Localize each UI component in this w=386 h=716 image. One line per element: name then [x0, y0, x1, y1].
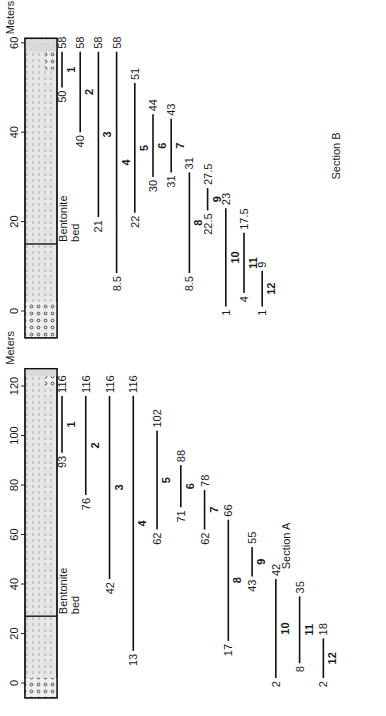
range-top-value: 116: [56, 375, 68, 393]
bentonite-label-bed: bed: [69, 224, 81, 242]
range-base-value: 17: [222, 644, 234, 656]
bentonite-label: Bentonite: [57, 195, 69, 241]
taxon-range-5: 51225: [129, 68, 150, 228]
range-base-value: 62: [151, 533, 163, 545]
range-id: 10: [279, 622, 291, 634]
taxon-range-10: 42210: [270, 564, 291, 687]
range-base-value: 22: [129, 216, 141, 228]
axis-tick-label: 80: [8, 479, 20, 491]
range-base-value: 8: [294, 666, 306, 672]
axis-tick-label: 20: [8, 215, 20, 227]
range-base-value: 43: [246, 580, 258, 592]
bentonite-label-bed: bed: [69, 596, 81, 614]
axis-title: Meters: [4, 331, 16, 365]
range-top-value: 43: [165, 104, 177, 116]
section-title: Section B: [330, 132, 342, 179]
range-id: 1: [65, 67, 77, 73]
stratigraphic-range-chart: Meters020406080100120Bentonitebed1169311…: [0, 0, 386, 716]
range-base-value: 93: [56, 456, 68, 468]
range-top-value: 44: [147, 99, 159, 111]
range-top-value: 78: [199, 475, 211, 487]
range-top-value: 31: [183, 157, 195, 169]
taxon-range-12: 18212: [317, 623, 338, 687]
range-top-value: 17.5: [238, 208, 250, 229]
range-top-value: 23: [220, 193, 232, 205]
range-id: 5: [160, 477, 172, 483]
range-top-value: 116: [104, 375, 116, 393]
conglomerate-layer-base: [25, 302, 57, 338]
range-top-value: 18: [317, 623, 329, 635]
range-top-value: 51: [129, 68, 141, 80]
range-id: 6: [156, 143, 168, 149]
axis-tick-label: 60: [8, 528, 20, 540]
range-top-value: 27.5: [202, 164, 214, 185]
taxon-range-11: 35811: [294, 581, 315, 672]
range-base-value: 2: [270, 681, 282, 687]
range-id: 10: [229, 251, 241, 263]
taxon-range-7: 43317: [165, 104, 186, 188]
range-base-value: 22.5: [202, 213, 214, 234]
range-id: 11: [303, 624, 315, 636]
axis-tick-label: 100: [8, 426, 20, 444]
conglomerate-layer-top: [45, 52, 56, 70]
section-b: Meters0204060Bentonitebed585015840258213…: [4, 0, 342, 338]
taxon-range-4: 116134: [127, 375, 148, 666]
range-base-value: 40: [74, 135, 86, 147]
range-base-value: 1: [220, 310, 232, 316]
range-base-value: 13: [127, 654, 139, 666]
range-base-value: 2: [317, 681, 329, 687]
range-top-value: 58: [92, 36, 104, 48]
lithology-column: [25, 38, 57, 337]
range-top-value: 102: [151, 409, 163, 427]
range-id: 7: [174, 143, 186, 149]
taxon-range-12: 9112: [256, 262, 277, 316]
range-id: 8: [231, 577, 243, 583]
taxon-range-1: 116931: [56, 375, 77, 468]
axis-tick-label: 20: [8, 627, 20, 639]
axis-tick-label: 120: [8, 377, 20, 395]
range-base-value: 21: [92, 220, 104, 232]
section-title: Section A: [280, 522, 292, 569]
range-top-value: 116: [127, 375, 139, 393]
axis-tick-label: 40: [8, 126, 20, 138]
range-base-value: 8.5: [183, 276, 195, 291]
bentonite-label: Bentonite: [57, 568, 69, 614]
range-base-value: 1: [256, 310, 268, 316]
taxon-range-9: 55439: [246, 532, 267, 592]
sandstone-cap: [25, 38, 57, 51]
taxon-range-2: 58402: [74, 36, 95, 147]
range-id: 3: [113, 484, 125, 490]
range-top-value: 58: [74, 36, 86, 48]
axis-tick-label: 40: [8, 578, 20, 590]
taxon-range-6: 88716: [175, 450, 196, 523]
range-top-value: 35: [294, 581, 306, 593]
range-id: 12: [265, 283, 277, 295]
axis-title: Meters: [4, 0, 16, 34]
range-id: 4: [136, 519, 148, 526]
range-base-value: 4: [238, 296, 250, 302]
range-id: 12: [326, 652, 338, 664]
range-base-value: 8.5: [111, 276, 123, 291]
taxon-range-11: 17.5411: [238, 208, 259, 302]
conglomerate-layer-top: [45, 376, 56, 386]
taxon-range-2: 116762: [80, 375, 101, 510]
taxon-range-7: 78627: [199, 475, 220, 545]
taxon-range-3: 58213: [92, 36, 113, 232]
range-base-value: 30: [147, 180, 159, 192]
taxon-range-5: 102625: [151, 409, 172, 545]
conglomerate-layer-base: [25, 678, 57, 698]
range-top-value: 55: [246, 532, 258, 544]
range-top-value: 116: [80, 375, 92, 393]
axis-tick-label: 60: [8, 37, 20, 49]
range-id: 7: [208, 507, 220, 513]
range-top-value: 9: [256, 262, 268, 268]
section-a: Meters020406080100120Bentonitebed1169311…: [4, 331, 338, 698]
range-base-value: 42: [104, 582, 116, 594]
range-id: 9: [255, 559, 267, 565]
range-top-value: 58: [111, 36, 123, 48]
range-id: 1: [65, 421, 77, 427]
range-base-value: 50: [56, 91, 68, 103]
range-top-value: 88: [175, 450, 187, 462]
range-base-value: 31: [165, 175, 177, 187]
range-base-value: 71: [175, 510, 187, 522]
